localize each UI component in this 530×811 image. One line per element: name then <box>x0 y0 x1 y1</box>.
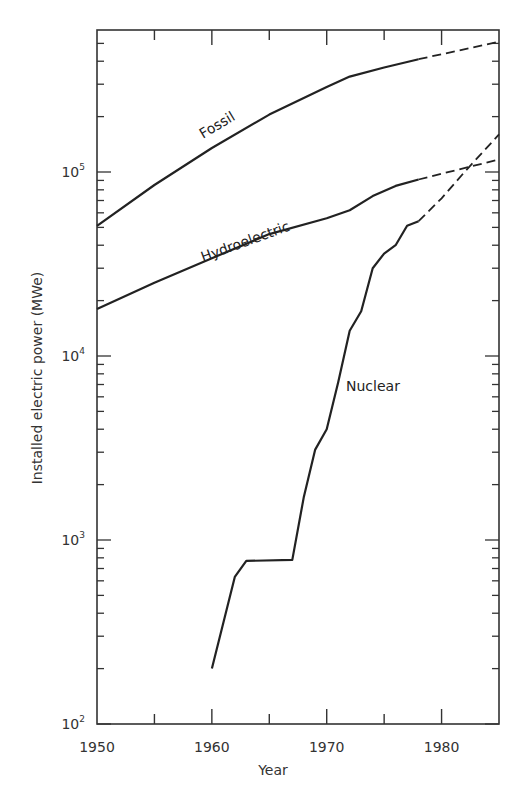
series-fossil <box>97 59 419 226</box>
plot-frame <box>97 30 499 724</box>
label-hydroelectric: Hydroelectric <box>199 218 292 265</box>
x-axis-title: Year <box>257 762 288 778</box>
y-tick-label: 103 <box>61 530 85 548</box>
series-nuclear <box>212 221 419 668</box>
plot-border <box>97 30 499 724</box>
label-nuclear: Nuclear <box>346 378 400 394</box>
y-tick-label: 102 <box>61 714 85 732</box>
series-lines <box>97 42 499 669</box>
projection-nuclear <box>419 134 499 221</box>
x-tick-label: 1950 <box>79 739 115 755</box>
y-axis-title: Installed electric power (MWe) <box>29 272 45 485</box>
x-tick-labels: 1950196019701980 <box>79 739 459 755</box>
y-tick-label: 104 <box>61 346 85 364</box>
axis-ticks <box>97 30 499 724</box>
y-tick-labels: 102103104105 <box>61 162 85 732</box>
line-chart: 1950196019701980 102103104105 Fossil Hyd… <box>0 0 530 811</box>
x-tick-label: 1970 <box>309 739 345 755</box>
projection-hydroelectric <box>419 160 499 180</box>
projection-fossil <box>419 42 499 59</box>
x-tick-label: 1960 <box>194 739 230 755</box>
x-tick-label: 1980 <box>424 739 460 755</box>
y-tick-label: 105 <box>61 162 85 180</box>
